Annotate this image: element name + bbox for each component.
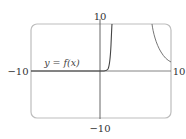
function-label: y = f(x) xyxy=(43,57,80,68)
x-min-label: −10 xyxy=(7,66,28,77)
x-max-label: 10 xyxy=(173,66,186,77)
function-graph: 10 −10 −10 10 y = f(x) xyxy=(0,0,186,139)
y-min-label: −10 xyxy=(89,123,110,134)
curve-right-branch xyxy=(152,24,171,62)
y-max-label: 10 xyxy=(94,11,107,22)
